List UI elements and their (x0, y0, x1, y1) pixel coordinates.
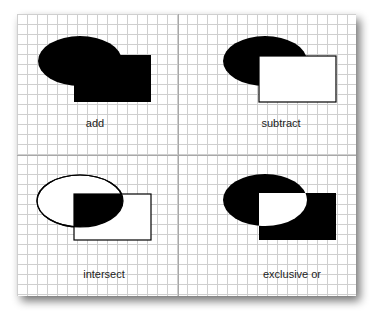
label-intersect: intersect (83, 268, 125, 280)
label-exclusive-or: exclusive or (263, 268, 321, 280)
label-add: add (86, 117, 104, 129)
label-subtract: subtract (261, 117, 300, 129)
figure-canvas: add subtract intersect exclusive or (0, 0, 374, 317)
area-operations-figure: add subtract intersect exclusive or (0, 0, 374, 317)
